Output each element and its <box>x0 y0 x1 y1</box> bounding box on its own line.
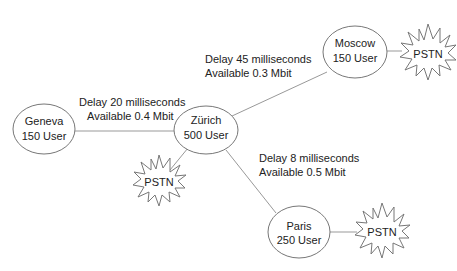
node-zurich: Zürich 500 User <box>174 106 238 154</box>
node-geneva: Geneva 150 User <box>13 104 75 154</box>
link-delay: Delay 8 milliseconds <box>259 152 360 164</box>
link-delay: Delay 20 milliseconds <box>79 96 186 108</box>
pstn-label: PSTN <box>413 48 442 60</box>
node-geneva-name: Geneva <box>25 115 64 127</box>
link-available: Available 0.4 Mbit <box>87 110 174 122</box>
node-moscow-users: 150 User <box>333 52 378 64</box>
node-moscow-name: Moscow <box>335 37 375 49</box>
node-moscow: Moscow 150 User <box>323 26 387 78</box>
link-delay: Delay 45 milliseconds <box>205 53 312 65</box>
pstn-moscow: PSTN <box>400 24 456 80</box>
pstn-label: PSTN <box>144 176 173 188</box>
node-geneva-users: 150 User <box>22 130 67 142</box>
link-available: Available 0.3 Mbit <box>205 67 292 79</box>
link-label-geneva-zurich: Delay 20 milliseconds Available 0.4 Mbit <box>79 96 186 122</box>
network-diagram: Geneva 150 User Zürich 500 User Moscow 1… <box>0 0 457 271</box>
link-label-zurich-moscow: Delay 45 milliseconds Available 0.3 Mbit <box>205 53 312 79</box>
node-paris-users: 250 User <box>277 234 322 246</box>
node-paris-name: Paris <box>286 220 312 232</box>
pstn-label: PSTN <box>367 226 396 238</box>
node-zurich-users: 500 User <box>184 129 229 141</box>
pstn-zurich: PSTN <box>133 155 186 206</box>
link-available: Available 0.5 Mbit <box>259 166 346 178</box>
node-zurich-name: Zürich <box>191 114 222 126</box>
link-label-zurich-paris: Delay 8 milliseconds Available 0.5 Mbit <box>259 152 360 178</box>
node-paris: Paris 250 User <box>268 206 330 258</box>
pstn-paris: PSTN <box>355 203 410 258</box>
